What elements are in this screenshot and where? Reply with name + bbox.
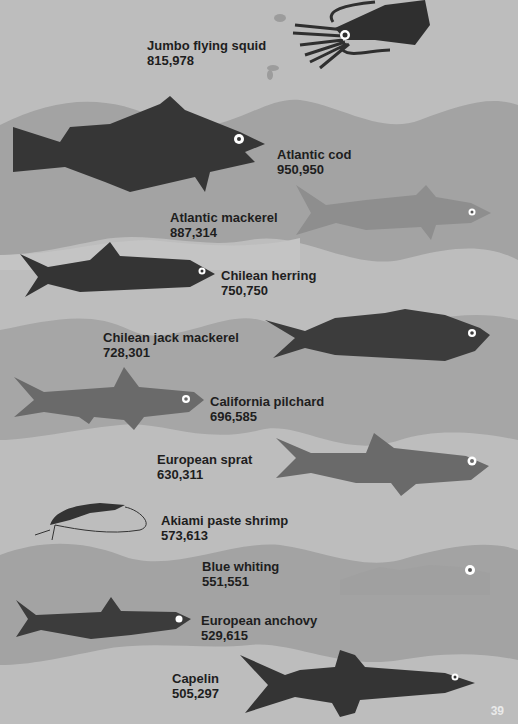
label-blue-whiting: Blue whiting 551,551	[202, 559, 279, 589]
chilean-jack-mackerel-icon	[265, 303, 495, 363]
label-chilean-jack-mackerel: Chilean jack mackerel 728,301	[103, 330, 239, 360]
label-jumbo-flying-squid: Jumbo flying squid 815,978	[147, 38, 266, 68]
blue-whiting-icon	[340, 555, 490, 595]
atlantic-cod-icon	[10, 92, 270, 192]
species-name: California pilchard	[210, 394, 324, 409]
species-name: Atlantic cod	[277, 147, 351, 162]
species-name: Jumbo flying squid	[147, 38, 266, 53]
species-value: 573,613	[161, 528, 288, 543]
infographic-page: Jumbo flying squid 815,978 Atlantic cod …	[0, 0, 518, 724]
species-value: 815,978	[147, 53, 266, 68]
akiami-paste-shrimp-icon	[30, 495, 150, 540]
species-value: 551,551	[202, 574, 279, 589]
species-value: 750,750	[221, 283, 316, 298]
chilean-herring-icon	[20, 242, 220, 297]
species-name: Atlantic mackerel	[170, 210, 278, 225]
species-value: 887,314	[170, 225, 278, 240]
label-european-anchovy: European anchovy 529,615	[201, 613, 317, 643]
california-pilchard-icon	[14, 362, 204, 432]
label-atlantic-mackerel: Atlantic mackerel 887,314	[170, 210, 278, 240]
capelin-icon	[240, 645, 480, 720]
atlantic-mackerel-icon	[296, 185, 496, 245]
label-european-sprat: European sprat 630,311	[157, 452, 252, 482]
label-akiami-paste-shrimp: Akiami paste shrimp 573,613	[161, 513, 288, 543]
european-anchovy-icon	[16, 597, 196, 642]
page-number: 39	[491, 704, 504, 718]
species-name: Akiami paste shrimp	[161, 513, 288, 528]
species-value: 505,297	[172, 686, 219, 701]
label-capelin: Capelin 505,297	[172, 671, 219, 701]
species-value: 630,311	[157, 467, 252, 482]
species-value: 728,301	[103, 345, 239, 360]
species-name: Chilean jack mackerel	[103, 330, 239, 345]
species-value: 950,950	[277, 162, 351, 177]
label-chilean-herring: Chilean herring 750,750	[221, 268, 316, 298]
species-name: European anchovy	[201, 613, 317, 628]
label-california-pilchard: California pilchard 696,585	[210, 394, 324, 424]
european-sprat-icon	[276, 428, 491, 498]
species-name: Blue whiting	[202, 559, 279, 574]
label-atlantic-cod: Atlantic cod 950,950	[277, 147, 351, 177]
species-name: Capelin	[172, 671, 219, 686]
species-name: Chilean herring	[221, 268, 316, 283]
species-value: 529,615	[201, 628, 317, 643]
species-name: European sprat	[157, 452, 252, 467]
squid-icon	[265, 0, 435, 80]
species-value: 696,585	[210, 409, 324, 424]
